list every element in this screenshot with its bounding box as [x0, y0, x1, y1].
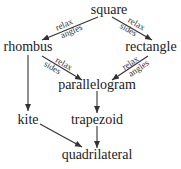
node-trapezoid: trapezoid	[71, 112, 123, 127]
node-parallelogram: parallelogram	[58, 77, 136, 92]
node-rhombus: rhombus	[4, 39, 53, 54]
node-rectangle: rectangle	[125, 39, 176, 54]
node-kite: kite	[18, 112, 39, 127]
quadrilateral-hierarchy-diagram: relax angles relax sides relax sides rel…	[0, 0, 181, 169]
node-square: square	[91, 2, 128, 17]
node-quadrilateral: quadrilateral	[62, 147, 133, 162]
edge-kite-quadrilateral	[40, 124, 82, 147]
